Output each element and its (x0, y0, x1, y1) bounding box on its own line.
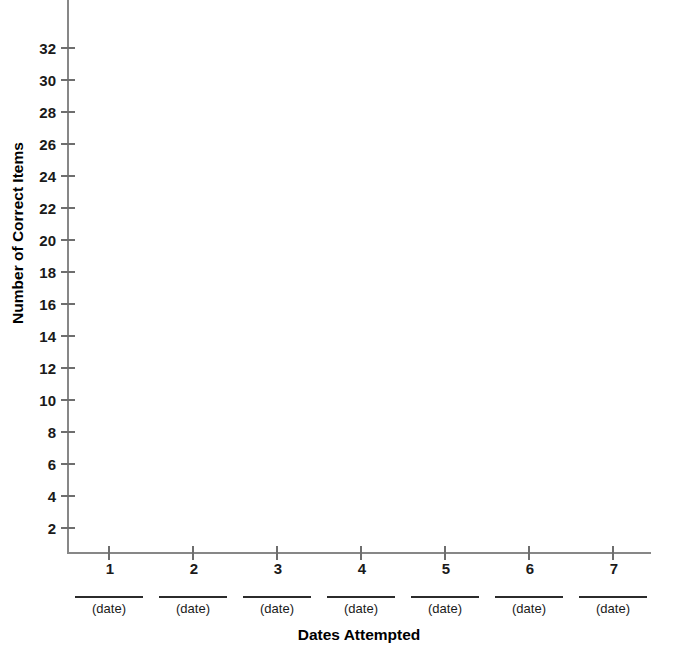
date-blank-label: (date) (327, 598, 395, 618)
y-tick-label: 32 (20, 41, 56, 56)
x-tick-mark (360, 546, 362, 560)
plot-area[interactable] (69, 0, 651, 552)
y-tick-mark (61, 399, 75, 401)
date-blank[interactable]: (date) (327, 596, 395, 618)
y-tick-label: 10 (20, 393, 56, 408)
x-tick-label: 6 (510, 561, 550, 577)
y-tick-label: 8 (20, 425, 56, 440)
date-blank[interactable]: (date) (243, 596, 311, 618)
date-blank-label: (date) (495, 598, 563, 618)
date-blank-label: (date) (579, 598, 647, 618)
y-tick-label-wrap: 12 (12, 361, 56, 376)
x-tick-mark (192, 546, 194, 560)
y-tick-mark (61, 207, 75, 209)
y-tick-label: 6 (20, 457, 56, 472)
y-tick-label-wrap: 2 (12, 521, 56, 536)
y-tick-label-wrap: 4 (12, 489, 56, 504)
x-tick-label: 4 (342, 561, 382, 577)
y-tick-mark (61, 527, 75, 529)
x-axis-title: Dates Attempted (67, 626, 651, 644)
y-tick-mark (61, 463, 75, 465)
y-tick-mark (61, 79, 75, 81)
y-tick-mark (61, 495, 75, 497)
y-tick-label: 4 (20, 489, 56, 504)
x-tick-label: 5 (426, 561, 466, 577)
y-tick-label-wrap: 6 (12, 457, 56, 472)
y-tick-mark (61, 367, 75, 369)
y-tick-label-wrap: 10 (12, 393, 56, 408)
date-blank-label: (date) (75, 598, 143, 618)
date-blank[interactable]: (date) (75, 596, 143, 618)
date-blank-label: (date) (243, 598, 311, 618)
date-blank[interactable]: (date) (579, 596, 647, 618)
y-tick-mark (61, 111, 75, 113)
x-tick-mark (108, 546, 110, 560)
y-axis-line (67, 0, 69, 554)
y-tick-label-wrap: 32 (12, 41, 56, 56)
y-axis-title: Number of Correct Items (9, 118, 27, 348)
y-tick-label: 12 (20, 361, 56, 376)
y-tick-mark (61, 175, 75, 177)
y-tick-mark (61, 431, 75, 433)
x-tick-label: 2 (174, 561, 214, 577)
y-tick-label: 30 (20, 73, 56, 88)
y-tick-label-wrap: 30 (12, 73, 56, 88)
date-blank[interactable]: (date) (411, 596, 479, 618)
date-blank[interactable]: (date) (159, 596, 227, 618)
x-tick-mark (444, 546, 446, 560)
y-tick-mark (61, 143, 75, 145)
y-tick-mark (61, 47, 75, 49)
y-tick-mark (61, 271, 75, 273)
x-tick-mark (276, 546, 278, 560)
x-tick-label: 7 (594, 561, 634, 577)
x-axis-line (67, 552, 651, 554)
chart-container: 2468101214161820222426283032 Number of C… (0, 0, 683, 646)
y-tick-mark (61, 239, 75, 241)
x-tick-mark (528, 546, 530, 560)
x-tick-label: 3 (258, 561, 298, 577)
date-blank-label: (date) (411, 598, 479, 618)
date-blank[interactable]: (date) (495, 596, 563, 618)
y-tick-mark (61, 303, 75, 305)
date-blank-label: (date) (159, 598, 227, 618)
y-tick-label-wrap: 8 (12, 425, 56, 440)
y-tick-label: 2 (20, 521, 56, 536)
x-tick-mark (612, 546, 614, 560)
y-tick-mark (61, 335, 75, 337)
x-tick-label: 1 (90, 561, 130, 577)
